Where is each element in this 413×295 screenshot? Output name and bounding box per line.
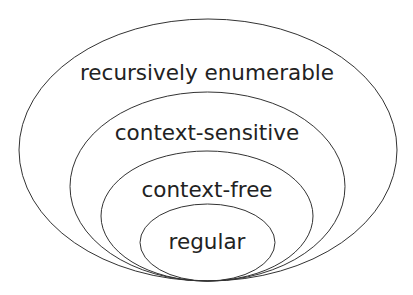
ellipse-context-free [101, 151, 313, 281]
label-recursively-enumerable: recursively enumerable [80, 60, 334, 85]
label-context-free: context-free [141, 177, 272, 202]
label-context-sensitive: context-sensitive [115, 120, 299, 145]
chomsky-hierarchy-diagram: recursively enumerable context-sensitive… [0, 0, 413, 295]
label-regular: regular [169, 229, 246, 254]
